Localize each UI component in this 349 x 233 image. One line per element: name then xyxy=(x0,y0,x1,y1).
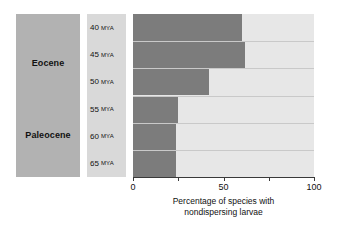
age-tick-row: 65 MYA xyxy=(87,150,126,177)
age-tick-row: 40 MYA xyxy=(87,14,126,41)
plot-area xyxy=(133,14,314,177)
age-tick-unit: MYA xyxy=(101,79,114,85)
x-axis-tick xyxy=(178,177,179,181)
chart-figure: Eocene Paleocene 40 MYA 45 MYA 50 MYA 55… xyxy=(0,0,349,233)
age-tick-value: 45 xyxy=(90,50,99,59)
age-tick-unit: MYA xyxy=(101,52,114,58)
epoch-label-paleocene: Paleocene xyxy=(16,130,80,140)
bar-row xyxy=(133,14,314,41)
age-tick-row: 45 MYA xyxy=(87,41,126,68)
bar-fill xyxy=(133,96,178,123)
row-divider xyxy=(133,41,314,42)
row-divider xyxy=(133,150,314,151)
epoch-label-eocene: Eocene xyxy=(16,58,80,68)
bar-row xyxy=(133,123,314,150)
x-axis-tick-label: 50 xyxy=(218,182,228,192)
bar-fill xyxy=(133,68,209,95)
age-tick-unit: MYA xyxy=(101,133,114,139)
epoch-panel: Eocene Paleocene xyxy=(16,14,80,177)
bar-fill xyxy=(133,150,176,177)
age-tick-value: 40 xyxy=(90,23,99,32)
bar-fill xyxy=(133,123,176,150)
age-tick-value: 55 xyxy=(90,105,99,114)
age-tick-row: 55 MYA xyxy=(87,96,126,123)
bar-fill xyxy=(133,14,242,41)
bar-row xyxy=(133,150,314,177)
age-tick-unit: MYA xyxy=(101,25,114,31)
age-tick-row: 50 MYA xyxy=(87,68,126,95)
bar-row xyxy=(133,41,314,68)
bar-row xyxy=(133,96,314,123)
x-axis-title-line-1: Percentage of species with xyxy=(133,196,314,207)
x-axis-tick xyxy=(133,177,134,181)
row-divider xyxy=(133,68,314,69)
age-axis-column: 40 MYA 45 MYA 50 MYA 55 MYA 60 MYA 65 MY… xyxy=(87,14,126,177)
x-axis-title-line-2: nondispersing larvae xyxy=(133,207,314,218)
x-axis-tick-label: 100 xyxy=(306,182,321,192)
bar-fill xyxy=(133,41,245,68)
age-tick-value: 60 xyxy=(90,132,99,141)
row-divider xyxy=(133,123,314,124)
x-axis-tick xyxy=(314,177,315,181)
row-divider xyxy=(133,96,314,97)
bar-row xyxy=(133,68,314,95)
age-tick-value: 65 xyxy=(90,159,99,168)
x-axis-tick-label: 0 xyxy=(130,182,135,192)
age-tick-value: 50 xyxy=(90,77,99,86)
x-axis-tick xyxy=(224,177,225,181)
age-tick-unit: MYA xyxy=(101,106,114,112)
x-axis-title: Percentage of species with nondispersing… xyxy=(133,196,314,218)
age-tick-row: 60 MYA xyxy=(87,123,126,150)
x-axis-tick xyxy=(269,177,270,181)
age-tick-unit: MYA xyxy=(101,160,114,166)
